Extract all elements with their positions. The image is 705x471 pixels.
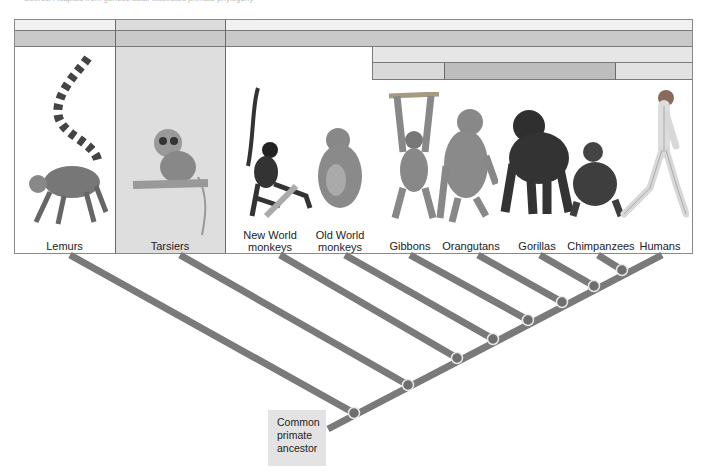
branch-gibbons (410, 255, 528, 320)
node-icon (617, 265, 628, 276)
node-icon (523, 315, 534, 326)
node-icon (557, 297, 568, 308)
common-ancestor-box: Common primate ancestor (268, 410, 326, 466)
phylogenetic-tree (0, 0, 705, 471)
node-icon (452, 353, 463, 364)
node-icon (488, 334, 499, 345)
branch-gorillas (540, 255, 594, 286)
node-icon (589, 281, 600, 292)
node-icon (349, 408, 360, 419)
branch-lemurs (70, 255, 354, 413)
node-icon (403, 380, 414, 391)
branch-old-world-monkeys (345, 255, 493, 339)
